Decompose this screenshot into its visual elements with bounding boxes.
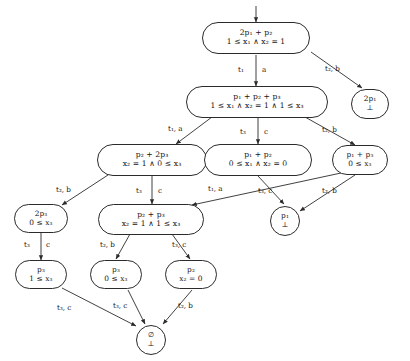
node-n11[interactable]: p₂ x₂ = 0 (165, 260, 217, 289)
edge-label-n5-n7: t₁, a (208, 184, 223, 193)
edge-label-n3-n6: t₂, b (56, 185, 71, 194)
node-n3[interactable]: p₂ + 2p₃ x₂ = 1 ∧ 0 ≤ x₃ (97, 144, 207, 176)
edge-label-n0-n2: t₂, b (325, 64, 340, 73)
edge-label-n7-n10: t₂, b (100, 240, 115, 249)
edge-label-n9-n12: t₃, c (57, 303, 71, 312)
node-guard: x₂ = 1 ∧ 0 ≤ x₃ (123, 160, 182, 169)
node-guard: x₂ = 1 ∧ 1 ≤ x₃ (122, 220, 181, 229)
reachability-tree-diagram: 2p₁ + p₂ 1 ≤ x₁ ∧ x₂ = 1 p₁ + p₂ + p₃ 1 … (0, 0, 410, 361)
node-guard: 0 ≤ x₁ ∧ x₂ = 0 (229, 160, 288, 169)
node-guard: 1 ≤ x₁ ∧ x₂ = 1 ∧ 1 ≤ x₃ (210, 102, 303, 111)
node-guard: 0 ≤ x₃ (29, 219, 52, 228)
node-n4[interactable]: p₁ + p₂ 0 ≤ x₁ ∧ x₂ = 0 (204, 144, 312, 176)
edge-label-n7-n11: t₃, c (172, 240, 186, 249)
edge-label-n4-n8: t₃, c (258, 186, 272, 195)
edge-n7-n10 (116, 234, 130, 259)
edge-label-n10-n12: t₃, c (113, 301, 127, 310)
node-n9[interactable]: p₃ 1 ≤ x₃ (15, 260, 67, 289)
node-n6[interactable]: 2p₃ 0 ≤ x₃ (14, 204, 68, 233)
node-n1[interactable]: p₁ + p₂ + p₃ 1 ≤ x₁ ∧ x₂ = 1 ∧ 1 ≤ x₃ (186, 86, 328, 118)
node-guard: 1 ≤ x₃ (29, 275, 52, 284)
node-n7[interactable]: p₂ + p₃ x₂ = 1 ∧ 1 ≤ x₃ (98, 204, 204, 235)
node-n10[interactable]: p₃ 0 ≤ x₃ (90, 260, 142, 289)
edge-label-n1-n5: t₂, b (322, 125, 337, 134)
node-guard: ⊥ (281, 221, 288, 230)
edge-label-n1-n3: t₁, a (168, 124, 183, 133)
edge-label-n1-n4-t3: t₃ (240, 127, 246, 136)
node-n0[interactable]: 2p₁ + p₂ 1 ≤ x₁ ∧ x₂ = 1 (202, 22, 310, 54)
edge-label-n3-n7-c: c (158, 186, 162, 195)
node-n12[interactable]: ∅ ⊥ (136, 325, 166, 355)
node-n8[interactable]: p₁ ⊥ (270, 206, 300, 236)
edge-label-n11-n12: t₂, b (178, 301, 193, 310)
node-n5[interactable]: p₁ + p₃ 0 ≤ x₃ (332, 145, 388, 175)
edge-label-a: a (262, 65, 266, 74)
node-guard: x₂ = 0 (179, 275, 202, 284)
node-n2[interactable]: 2p₁ ⊥ (351, 89, 389, 119)
node-guard: 1 ≤ x₁ ∧ x₂ = 1 (227, 38, 286, 47)
edge-label-t1: t₁ (238, 65, 244, 74)
edge-label-n5-n8: t₂, b (322, 186, 337, 195)
edge-n10-n12 (128, 290, 145, 324)
node-guard: 0 ≤ x₃ (348, 160, 371, 169)
edge-label-n1-n4-c: c (264, 127, 268, 136)
node-guard: 0 ≤ x₃ (104, 275, 127, 284)
node-guard: ⊥ (366, 104, 373, 113)
edge-label-n3-n7-t3: t₃ (136, 186, 142, 195)
edge-label-n6-n9-t3: t₃ (24, 240, 30, 249)
node-guard: ⊥ (147, 340, 154, 349)
edge-label-n6-n9-c: c (46, 240, 50, 249)
